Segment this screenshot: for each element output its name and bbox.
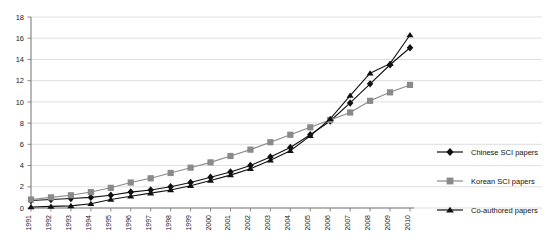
y-tick-label: 16 [16, 34, 24, 43]
y-tick-label: 18 [16, 13, 24, 22]
data-point [347, 109, 353, 115]
y-tick-label: 14 [16, 55, 24, 64]
y-tick-label: 2 [20, 182, 24, 191]
data-point [108, 185, 114, 191]
data-point [387, 89, 393, 95]
data-point [68, 192, 74, 198]
x-tick-label: 2009 [384, 215, 391, 231]
chart-figure: 024681012141618 199119921993199419951996… [0, 0, 551, 250]
x-tick-label: 2001 [224, 215, 231, 231]
y-tick-label: 4 [20, 161, 24, 170]
legend-marker [447, 178, 454, 185]
y-tick-label: 8 [20, 119, 24, 128]
x-tick-label: 1995 [105, 215, 112, 231]
legend-label: Chinese SCI papers [471, 148, 538, 157]
legend-label: Co-authored papers [471, 206, 538, 215]
y-tick-label: 10 [16, 98, 24, 107]
data-point [128, 179, 134, 185]
data-point [267, 139, 273, 145]
x-tick-label: 2008 [364, 215, 371, 231]
y-tick-label: 12 [16, 76, 24, 85]
data-point [367, 98, 373, 104]
data-point [88, 189, 94, 195]
x-tick-label: 1998 [165, 215, 172, 231]
y-tick-label: 0 [20, 204, 24, 213]
x-tick-label: 2003 [264, 215, 271, 231]
x-tick-label: 1999 [185, 215, 192, 231]
x-tick-label: 2006 [324, 215, 331, 231]
chart-background [0, 0, 551, 250]
x-tick-label: 2010 [404, 215, 411, 231]
x-tick-label: 1994 [85, 215, 92, 231]
x-tick-label: 1997 [145, 215, 152, 231]
x-tick-label: 1992 [45, 215, 52, 231]
data-point [148, 175, 154, 181]
data-point [227, 153, 233, 159]
x-tick-label: 1991 [25, 215, 32, 231]
data-point [168, 170, 174, 176]
data-point [28, 196, 34, 202]
data-point [187, 165, 193, 171]
x-tick-label: 2004 [284, 215, 291, 231]
data-point [407, 82, 413, 88]
y-tick-label: 6 [20, 140, 24, 149]
data-point [207, 159, 213, 165]
x-tick-label: 1996 [125, 215, 132, 231]
x-tick-label: 1993 [65, 215, 72, 231]
data-point [307, 124, 313, 130]
data-point [48, 194, 54, 200]
x-tick-label: 2007 [344, 215, 351, 231]
x-tick-label: 2005 [304, 215, 311, 231]
data-point [287, 132, 293, 138]
x-tick-label: 2000 [205, 215, 212, 231]
legend-label: Korean SCI papers [471, 177, 535, 186]
data-point [247, 147, 253, 153]
x-tick-label: 2002 [244, 215, 251, 231]
